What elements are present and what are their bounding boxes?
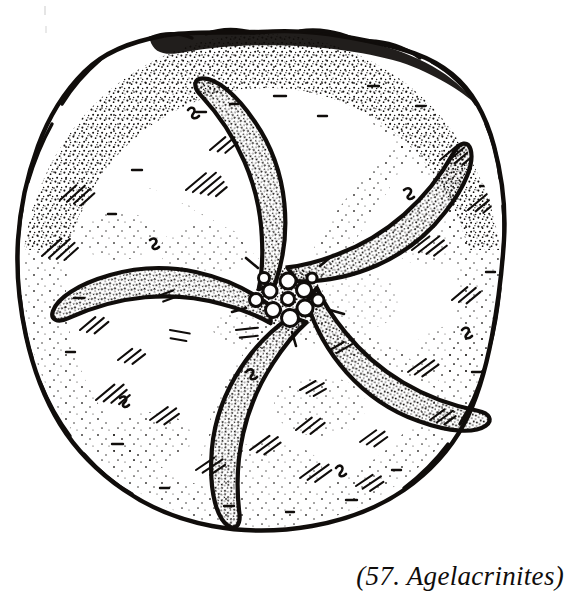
figure-caption: (57. Agelacrinites) xyxy=(356,563,564,590)
fossil-illustration xyxy=(0,0,568,594)
figure-root: (57. Agelacrinites) xyxy=(0,0,568,594)
